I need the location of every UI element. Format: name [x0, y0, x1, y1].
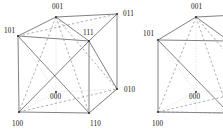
guide-r-101-000 — [158, 40, 196, 92]
left-interior-guides — [18, 17, 117, 113]
edge-100-101 — [18, 36, 19, 112]
edge-101-111 — [18, 36, 89, 41]
vertex-dot-110 — [88, 112, 90, 114]
edge-101-001 — [18, 17, 56, 36]
vertex-label-100-left: 100 — [12, 120, 24, 128]
edge-r-101-001 — [158, 17, 196, 40]
cube-tetrahedron-svg: 001 011 101 111 010 000 100 110 — [0, 0, 223, 131]
vertex-label-000-left: 000 — [50, 93, 62, 101]
right-tetrahedron-solid-edges — [158, 40, 223, 113]
vertex-label-111-left: 111 — [83, 29, 94, 37]
tet-edge-001-010 — [56, 17, 117, 89]
vertex-dot-100 — [18, 111, 20, 113]
guide-101-000 — [18, 36, 56, 92]
guide-r-000-010 — [196, 89, 223, 92]
vertex-dot-r-101 — [157, 39, 159, 41]
vertex-dot-011 — [116, 13, 118, 15]
left-tetrahedron-solid-edges — [18, 36, 89, 113]
edge-110-100 — [19, 112, 89, 113]
vertex-label-101-left: 101 — [4, 27, 16, 35]
vertex-dot-001 — [55, 16, 57, 18]
edge-001-011 — [56, 14, 117, 17]
vertex-label-100-right: 100 — [152, 120, 164, 128]
edge-010-111-solid — [89, 41, 117, 89]
tet-edge-101-110 — [18, 36, 89, 113]
right-panel: 001 101 000 100 — [143, 3, 223, 128]
vertex-dot-r-001 — [195, 16, 197, 18]
vertex-dot-111 — [88, 40, 90, 42]
vertex-dot-010 — [116, 88, 118, 90]
tet-edge-r-101-110 — [158, 40, 223, 113]
vertex-label-011-left: 011 — [123, 10, 134, 18]
tet-edge-100-010 — [19, 89, 117, 112]
vertex-label-010-left: 010 — [124, 86, 136, 94]
vertex-label-001-right: 001 — [191, 3, 203, 11]
edge-r-101-111 — [158, 40, 223, 41]
vertex-dot-r-100 — [157, 111, 159, 113]
edge-r-001-111 — [196, 17, 223, 41]
left-panel: 001 011 101 111 010 000 100 110 — [4, 3, 136, 128]
hidden-edge-r-100-110 — [158, 112, 223, 113]
vertex-label-101-right: 101 — [143, 30, 155, 38]
guide-000-010 — [56, 89, 117, 92]
vertex-label-110-left: 110 — [90, 120, 101, 128]
vertex-label-001-left: 001 — [52, 3, 64, 11]
edge-r-001-011 — [196, 14, 223, 17]
hidden-edge-101-011 — [18, 14, 117, 36]
geometry-figure: 001 011 101 111 010 000 100 110 — [0, 0, 223, 131]
vertex-dot-101 — [17, 35, 19, 37]
vertex-label-000-right: 000 — [189, 93, 201, 101]
